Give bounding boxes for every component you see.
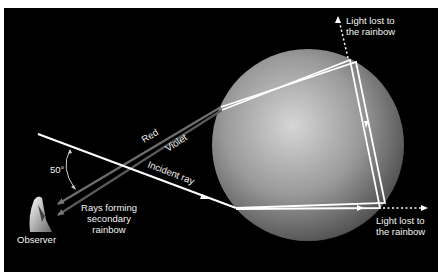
label-angle: 50° <box>50 164 65 175</box>
label-light-lost-right-2: the rainbow <box>376 226 425 237</box>
label-rays-forming-3: rainbow <box>92 224 125 235</box>
label-rays-forming-1: Rays forming <box>81 202 137 213</box>
label-light-lost-top: Light lost to <box>346 15 395 26</box>
label-rays-forming-2: secondary <box>87 213 131 224</box>
label-observer: Observer <box>17 234 56 245</box>
secondary-rainbow-diagram: Light lost to the rainbow Light lost to … <box>0 0 443 275</box>
label-light-lost-right: Light lost to <box>376 215 425 226</box>
label-light-lost-top-2: the rainbow <box>346 26 395 37</box>
